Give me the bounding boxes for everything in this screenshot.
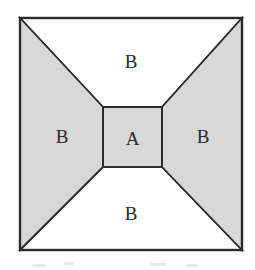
cropped-caption-remnant (64, 262, 74, 265)
cropped-caption-remnant (32, 264, 46, 267)
label-bottom-b: B (125, 203, 138, 224)
label-center-a: A (126, 128, 140, 149)
square-dissection-figure: B B A B B (0, 0, 255, 270)
label-right-b: B (197, 126, 210, 147)
cropped-caption-remnant (186, 264, 198, 267)
label-top-b: B (125, 51, 138, 72)
label-left-b: B (56, 126, 69, 147)
figure-svg: B B A B B (0, 0, 255, 270)
cropped-caption-remnant (150, 263, 166, 266)
